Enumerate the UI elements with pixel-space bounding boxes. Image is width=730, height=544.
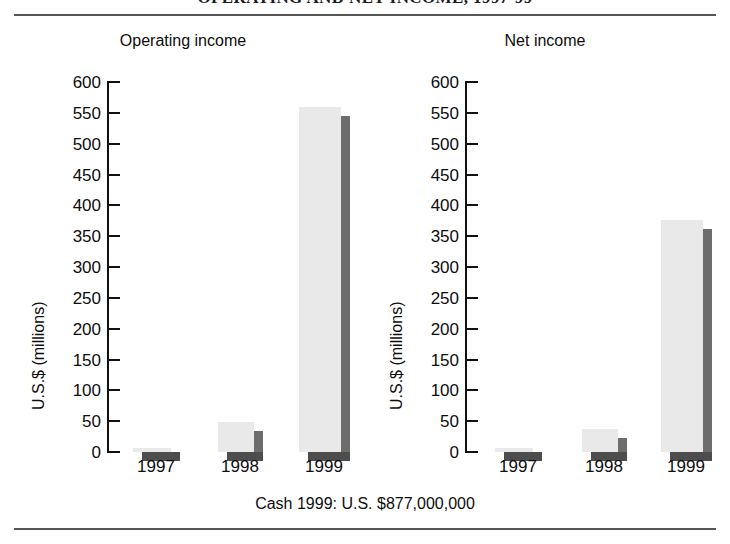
y-axis-tick-label: 50	[82, 413, 101, 430]
y-axis-tick	[107, 328, 120, 330]
y-axis-tick-label: 300	[431, 259, 459, 276]
bar	[218, 422, 254, 452]
bar	[299, 107, 341, 452]
y-axis-tick	[107, 112, 120, 114]
y-axis-tick-label: 400	[431, 197, 459, 214]
y-axis-tick-label: 50	[440, 413, 459, 430]
y-axis-label-operating-income: U.S.$ (millions)	[30, 302, 48, 410]
y-axis-label-net-income: U.S.$ (millions)	[388, 302, 406, 410]
y-axis-tick-label: 150	[431, 351, 459, 368]
y-axis-tick-label: 500	[431, 135, 459, 152]
y-axis-tick	[107, 389, 120, 391]
y-axis-tick-label: 550	[431, 104, 459, 121]
y-axis-tick-label: 400	[73, 197, 101, 214]
y-axis-top-cap	[107, 81, 120, 83]
y-axis-tick	[465, 143, 478, 145]
y-axis-tick-label: 350	[73, 228, 101, 245]
y-axis-tick-label: 600	[431, 74, 459, 91]
x-axis-tick-label: 1998	[221, 458, 259, 475]
bar-shadow-right	[341, 116, 350, 461]
y-axis-tick-label: 350	[431, 228, 459, 245]
y-axis-tick	[465, 266, 478, 268]
bar	[582, 429, 618, 452]
top-rule	[14, 14, 716, 16]
y-axis-tick-label: 600	[73, 74, 101, 91]
y-axis-tick	[107, 297, 120, 299]
y-axis-tick	[465, 420, 478, 422]
y-axis-tick-label: 300	[73, 259, 101, 276]
x-axis-tick-label: 1997	[499, 458, 537, 475]
plot-area-net-income: 0501001502002503003504004505005506001997…	[465, 82, 711, 452]
chart-panel-net-income: Net income U.S.$ (millions) 050100150200…	[368, 32, 722, 482]
y-axis-tick	[107, 420, 120, 422]
y-axis-top-cap	[465, 81, 478, 83]
y-axis-tick	[465, 389, 478, 391]
y-axis-tick-label: 450	[431, 166, 459, 183]
figure-caption: Cash 1999: U.S. $877,000,000	[0, 495, 730, 513]
y-axis-tick	[465, 174, 478, 176]
plot-area-operating-income: 0501001502002503003504004505005506001997…	[107, 82, 347, 452]
y-axis-tick	[107, 204, 120, 206]
y-axis-tick	[465, 204, 478, 206]
y-axis-tick	[107, 359, 120, 361]
y-axis-tick	[465, 359, 478, 361]
y-axis-tick-label: 550	[73, 104, 101, 121]
y-axis-tick-label: 250	[73, 289, 101, 306]
y-axis-tick	[465, 328, 478, 330]
y-axis-tick-label: 200	[73, 320, 101, 337]
y-axis-tick-label: 100	[73, 382, 101, 399]
y-axis-tick	[465, 112, 478, 114]
y-axis-bottom-cap	[107, 451, 120, 453]
x-axis-tick-label: 1999	[305, 458, 343, 475]
chart-title-net-income: Net income	[368, 32, 722, 50]
y-axis-tick	[107, 266, 120, 268]
y-axis-tick-label: 200	[431, 320, 459, 337]
x-axis-tick-label: 1999	[667, 458, 705, 475]
y-axis-tick	[107, 143, 120, 145]
chart-title-operating-income: Operating income	[8, 32, 358, 50]
bottom-rule	[14, 528, 716, 530]
y-axis-tick	[465, 297, 478, 299]
y-axis-tick-label: 150	[73, 351, 101, 368]
bar	[661, 220, 703, 452]
income-figure: OPERATING AND NET INCOME, 1997-99 Operat…	[0, 0, 730, 544]
y-axis-tick-label: 0	[450, 444, 459, 461]
y-axis-tick-label: 500	[73, 135, 101, 152]
bar-shadow-right	[703, 229, 712, 461]
x-axis-tick-label: 1998	[585, 458, 623, 475]
y-axis-tick-label: 100	[431, 382, 459, 399]
y-axis-bottom-cap	[465, 451, 478, 453]
y-axis-tick-label: 450	[73, 166, 101, 183]
y-axis-tick-label: 250	[431, 289, 459, 306]
y-axis-tick-label: 0	[92, 444, 101, 461]
y-axis-tick	[107, 235, 120, 237]
figure-title: OPERATING AND NET INCOME, 1997-99	[0, 0, 730, 8]
y-axis-tick	[465, 235, 478, 237]
x-axis-tick-label: 1997	[137, 458, 175, 475]
chart-panel-operating-income: Operating income U.S.$ (millions) 050100…	[8, 32, 358, 482]
y-axis-tick	[107, 174, 120, 176]
